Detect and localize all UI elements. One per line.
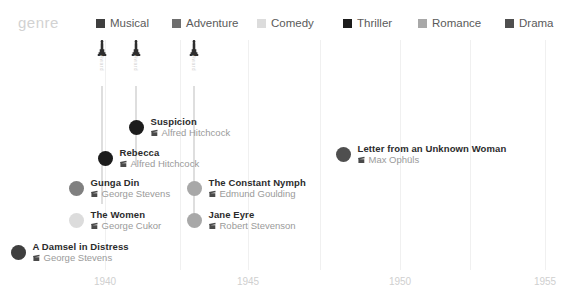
film-text-block: RebeccaAlfred Hitchcock: [120, 147, 200, 169]
award-label: Award: [99, 55, 105, 71]
film-director-row: George Cukor: [91, 220, 162, 231]
legend-title: genre: [18, 14, 59, 32]
x-axis-tick-label: 1940: [94, 276, 116, 287]
film-title: Suspicion: [151, 116, 231, 127]
movie-timeline-chart: genre MusicalAdventureComedyThrillerRoma…: [0, 0, 567, 305]
x-axis-tick-label: 1950: [389, 276, 411, 287]
legend-item-romance[interactable]: Romance: [418, 14, 481, 32]
oscar-statuette-icon: [98, 40, 107, 56]
film-title: Rebecca: [120, 147, 200, 158]
legend-swatch-musical: [96, 19, 105, 28]
clapperboard-icon: [209, 222, 216, 229]
clapperboard-icon: [151, 129, 158, 136]
legend-item-label: Drama: [519, 14, 554, 32]
x-axis-tick-label: 1945: [237, 276, 259, 287]
film-text-block: SuspicionAlfred Hitchcock: [151, 116, 231, 138]
film-title: A Damsel in Distress: [33, 241, 129, 252]
film-director-row: Edmund Goulding: [209, 188, 306, 199]
film-director: Max Ophüls: [369, 154, 420, 165]
legend-swatch-thriller: [343, 19, 352, 28]
legend-item-label: Thriller: [357, 14, 392, 32]
film-entry[interactable]: The WomenGeorge Cukor: [69, 209, 162, 231]
legend-swatch-adventure: [172, 19, 181, 28]
legend-item-label: Comedy: [271, 14, 314, 32]
gridline: [545, 40, 546, 270]
oscar-statuette-icon: [190, 40, 199, 56]
gridline: [248, 40, 249, 270]
x-axis-tick-label: 1955: [534, 276, 556, 287]
film-director: George Stevens: [102, 188, 171, 199]
legend-item-comedy[interactable]: Comedy: [257, 14, 314, 32]
film-genre-dot[interactable]: [98, 151, 113, 166]
legend-swatch-drama: [505, 19, 514, 28]
legend-item-drama[interactable]: Drama: [505, 14, 554, 32]
film-entry[interactable]: A Damsel in DistressGeorge Stevens: [11, 241, 129, 263]
clapperboard-icon: [209, 190, 216, 197]
film-entry[interactable]: Gunga DinGeorge Stevens: [69, 177, 171, 199]
film-director: George Cukor: [102, 220, 162, 231]
clapperboard-icon: [91, 190, 98, 197]
clapperboard-icon: [120, 160, 127, 167]
film-entry[interactable]: RebeccaAlfred Hitchcock: [98, 147, 200, 169]
film-director-row: Alfred Hitchcock: [120, 158, 200, 169]
genre-legend: genre MusicalAdventureComedyThrillerRoma…: [0, 14, 567, 32]
film-genre-dot[interactable]: [69, 181, 84, 196]
legend-item-label: Adventure: [186, 14, 238, 32]
film-entry[interactable]: Letter from an Unknown WomanMax Ophüls: [336, 143, 507, 165]
film-title: The Women: [91, 209, 162, 220]
film-director-row: George Stevens: [33, 252, 129, 263]
film-director-row: George Stevens: [91, 188, 171, 199]
film-genre-dot[interactable]: [11, 245, 26, 260]
legend-item-label: Romance: [432, 14, 481, 32]
film-director-row: Robert Stevenson: [209, 220, 296, 231]
film-title: Gunga Din: [91, 177, 171, 188]
film-director: Edmund Goulding: [220, 188, 296, 199]
film-director: George Stevens: [44, 252, 113, 263]
film-genre-dot[interactable]: [187, 213, 202, 228]
plot-area: AwardAwardAward SuspicionAlfred Hitchcoc…: [0, 40, 567, 270]
award-label: Award: [191, 55, 197, 71]
oscar-statuette-icon: [132, 40, 141, 56]
legend-item-musical[interactable]: Musical: [96, 14, 149, 32]
film-text-block: The WomenGeorge Cukor: [91, 209, 162, 231]
award-label: Award: [133, 55, 139, 71]
film-title: Letter from an Unknown Woman: [358, 143, 507, 154]
film-entry[interactable]: Jane EyreRobert Stevenson: [187, 209, 296, 231]
film-title: The Constant Nymph: [209, 177, 306, 188]
film-director: Alfred Hitchcock: [131, 158, 200, 169]
film-text-block: Letter from an Unknown WomanMax Ophüls: [358, 143, 507, 165]
film-title: Jane Eyre: [209, 209, 296, 220]
legend-swatch-romance: [418, 19, 427, 28]
film-entry[interactable]: SuspicionAlfred Hitchcock: [129, 116, 231, 138]
film-director-row: Alfred Hitchcock: [151, 127, 231, 138]
clapperboard-icon: [358, 156, 365, 163]
clapperboard-icon: [91, 222, 98, 229]
film-text-block: Gunga DinGeorge Stevens: [91, 177, 171, 199]
legend-item-label: Musical: [110, 14, 149, 32]
film-director: Alfred Hitchcock: [162, 127, 231, 138]
film-director-row: Max Ophüls: [358, 154, 507, 165]
film-genre-dot[interactable]: [69, 213, 84, 228]
film-genre-dot[interactable]: [336, 147, 351, 162]
legend-item-adventure[interactable]: Adventure: [172, 14, 238, 32]
gridline: [320, 40, 321, 270]
legend-swatch-comedy: [257, 19, 266, 28]
legend-item-thriller[interactable]: Thriller: [343, 14, 392, 32]
film-text-block: Jane EyreRobert Stevenson: [209, 209, 296, 231]
clapperboard-icon: [33, 254, 40, 261]
film-text-block: The Constant NymphEdmund Goulding: [209, 177, 306, 199]
film-director: Robert Stevenson: [220, 220, 296, 231]
film-text-block: A Damsel in DistressGeorge Stevens: [33, 241, 129, 263]
film-genre-dot[interactable]: [129, 120, 144, 135]
film-entry[interactable]: The Constant NymphEdmund Goulding: [187, 177, 306, 199]
film-genre-dot[interactable]: [187, 181, 202, 196]
